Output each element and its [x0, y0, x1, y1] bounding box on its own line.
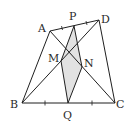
shaded-region-pmqn	[61, 26, 82, 103]
label-d: D	[101, 13, 110, 26]
segment-cd	[99, 20, 115, 103]
label-n: N	[84, 57, 94, 70]
diagonal-ac	[50, 31, 115, 103]
label-c: C	[116, 98, 124, 111]
label-q: Q	[63, 109, 72, 122]
label-p: P	[69, 10, 77, 23]
tick-ap	[62, 26, 63, 30]
label-m: M	[48, 52, 59, 65]
tick-pd	[86, 21, 87, 25]
label-a: A	[37, 22, 47, 35]
label-b: B	[10, 98, 18, 111]
segment-ab	[22, 31, 50, 103]
geometry-diagram: A P D M N B Q C	[0, 0, 135, 122]
